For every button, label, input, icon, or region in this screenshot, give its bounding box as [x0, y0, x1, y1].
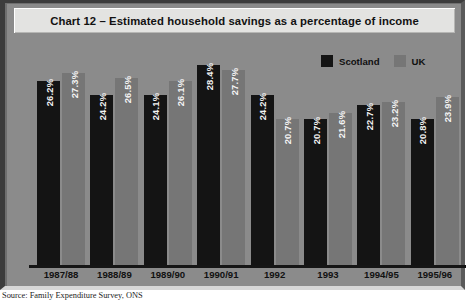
bar-value-label: 23.9%: [442, 94, 453, 122]
x-axis-labels: 1987/881988/891989/901990/91199219931994…: [29, 269, 466, 285]
bar-value-label: 20.7%: [282, 117, 293, 145]
bar-uk-1988-89: 26.5%: [115, 78, 138, 265]
bar-scotland-1989-90: 24.1%: [144, 95, 167, 265]
bar-group: 26.2%27.3%: [37, 3, 85, 265]
bar-value-label: 28.4%: [203, 63, 214, 91]
chart-panel: Chart 12 – Estimated household savings a…: [0, 0, 465, 290]
bar-value-label: 27.7%: [228, 68, 239, 96]
x-tick-label: 1990/91: [204, 269, 239, 280]
x-tick-label: 1994/95: [364, 269, 399, 280]
bar-value-label: 24.2%: [257, 92, 268, 120]
bar-value-label: 20.7%: [310, 117, 321, 145]
bar-group: 24.2%26.5%: [90, 3, 138, 265]
bar-value-label: 26.1%: [175, 79, 186, 107]
bar-value-label: 27.3%: [68, 70, 79, 98]
bar-value-label: 22.7%: [363, 103, 374, 131]
bar-scotland-1988-89: 24.2%: [90, 95, 113, 265]
x-tick-label: 1989/90: [150, 269, 185, 280]
bar-uk-1992: 20.7%: [276, 119, 299, 265]
bar-scotland-1992: 24.2%: [251, 95, 274, 265]
bar-value-label: 20.8%: [417, 116, 428, 144]
bar-scotland-1993: 20.7%: [304, 119, 327, 265]
bar-uk-1989-90: 26.1%: [169, 81, 192, 265]
source-note: Source: Family Expenditure Survey, ONS: [2, 291, 143, 300]
x-axis-line: [29, 265, 466, 268]
bar-group: 20.7%21.6%: [304, 3, 352, 265]
bar-group: 24.2%20.7%: [251, 3, 299, 265]
plot-area: 26.2%27.3%24.2%26.5%24.1%26.1%28.4%27.7%…: [29, 37, 459, 265]
bar-value-label: 26.2%: [43, 78, 54, 106]
bar-uk-1993: 21.6%: [329, 113, 352, 265]
bar-scotland-1995-96: 20.8%: [411, 119, 434, 265]
x-tick-label: 1988/89: [97, 269, 132, 280]
bar-value-label: 23.2%: [388, 99, 399, 127]
bar-group: 24.1%26.1%: [144, 3, 192, 265]
x-tick-label: 1995/96: [417, 269, 452, 280]
bar-value-label: 24.1%: [150, 93, 161, 121]
bar-value-label: 26.5%: [121, 76, 132, 104]
x-tick-label: 1992: [264, 269, 285, 280]
bar-value-label: 21.6%: [335, 111, 346, 139]
x-tick-label: 1993: [317, 269, 338, 280]
bar-group: 28.4%27.7%: [197, 3, 245, 265]
bar-value-label: 24.2%: [96, 92, 107, 120]
bar-uk-1990-91: 27.7%: [222, 70, 245, 265]
bar-group: 20.8%23.9%: [411, 3, 459, 265]
bar-scotland-1987-88: 26.2%: [37, 81, 60, 266]
bar-group: 22.7%23.2%: [357, 3, 405, 265]
bar-uk-1994-95: 23.2%: [382, 102, 405, 265]
bar-scotland-1994-95: 22.7%: [357, 105, 380, 265]
bar-uk-1995-96: 23.9%: [436, 97, 459, 265]
bar-scotland-1990-91: 28.4%: [197, 65, 220, 265]
x-tick-label: 1987/88: [44, 269, 79, 280]
bar-uk-1987-88: 27.3%: [62, 73, 85, 265]
